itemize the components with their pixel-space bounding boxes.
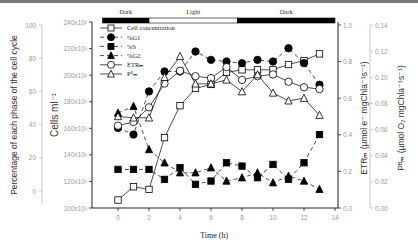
x-tick-label: 0 xyxy=(116,214,120,221)
pbm-tick-label: 0.08 xyxy=(375,100,388,107)
legend-entry: %S xyxy=(100,43,136,50)
period-label: Dark xyxy=(280,8,294,15)
etr-tick-label: 0.8 xyxy=(343,58,352,65)
x-tick-label: 12 xyxy=(300,214,308,221)
cells-tick-label: 220x10³ xyxy=(64,45,88,52)
x-tick-label: 2 xyxy=(147,214,151,221)
pbm-tick-label: 0.12 xyxy=(375,48,388,55)
x-tick-label: 6 xyxy=(209,214,213,221)
etr-tick-label: 0.2 xyxy=(343,168,352,175)
cells-tick-label: 140x10³ xyxy=(64,151,88,158)
legend-entry: ETRₘ xyxy=(100,61,143,68)
chart: 02468101214Time (h)100x10³120x10³140x10³… xyxy=(0,0,418,248)
period-label: Light xyxy=(186,8,200,15)
x-tick-label: 4 xyxy=(178,214,182,221)
cells-tick-label: 180x10³ xyxy=(64,98,88,105)
x-tick-label: 8 xyxy=(240,214,244,221)
percentage-tick-label: 80 xyxy=(29,55,37,62)
etr-tick-label: 0.0 xyxy=(343,205,352,212)
series-etr- xyxy=(114,63,323,129)
series xyxy=(114,45,323,204)
svg-text:ETRₘ: ETRₘ xyxy=(127,61,143,68)
etr-axis-title: ETRₘ (μmol e⁻ mgChla⁻¹s⁻¹) xyxy=(359,61,369,174)
x-tick-label: 10 xyxy=(269,214,277,221)
period-dark xyxy=(237,18,335,23)
legend-entry: %G1 xyxy=(100,34,140,41)
cells-axis-title: Cells ml⁻¹ xyxy=(49,92,60,137)
etr-tick-label: 0.4 xyxy=(343,131,352,138)
cells-tick-label: 240x10³ xyxy=(64,19,88,26)
pbm-tick-label: 0.14 xyxy=(375,22,388,29)
svg-text:%S: %S xyxy=(127,43,136,50)
x-axis-title: Time (h) xyxy=(200,231,228,240)
cells-tick-label: 120x10³ xyxy=(64,178,88,185)
axes: 02468101214Time (h)100x10³120x10³140x10³… xyxy=(9,19,406,241)
legend-entry: Cell concentration xyxy=(100,24,176,31)
pbm-tick-label: 0.04 xyxy=(375,152,388,159)
pbm-tick-label: 0.00 xyxy=(375,205,388,212)
cells-tick-label: 100x10³ xyxy=(64,205,88,212)
percentage-tick-label: 0 xyxy=(32,188,36,195)
percentage-tick-label: 60 xyxy=(29,88,37,95)
cells-tick-label: 200x10³ xyxy=(64,72,88,79)
cells-tick-label: 160x10³ xyxy=(64,125,88,132)
pbm-tick-label: 0.10 xyxy=(375,74,388,81)
pbm-tick-label: 0.06 xyxy=(375,126,388,133)
period-dark xyxy=(103,18,150,23)
legend-entry: %G2 xyxy=(100,52,140,59)
svg-text:%G1: %G1 xyxy=(127,34,140,41)
percentage-axis-title: Percentage of each phase of the cell cyc… xyxy=(9,35,19,195)
series--g1 xyxy=(114,45,323,139)
svg-text:%G2: %G2 xyxy=(127,52,140,59)
pbm-tick-label: 0.02 xyxy=(375,178,388,185)
legend-entry: Pᴮₘ xyxy=(100,70,137,77)
x-tick-label: 14 xyxy=(331,214,339,221)
svg-text:Pᴮₘ: Pᴮₘ xyxy=(127,70,137,77)
etr-tick-label: 1.0 xyxy=(343,22,352,29)
period-light xyxy=(149,18,237,23)
etr-tick-label: 0.6 xyxy=(343,95,352,102)
svg-text:Cell concentration: Cell concentration xyxy=(127,24,176,31)
period-bar: DarkLightDark xyxy=(103,8,336,23)
series--g2 xyxy=(114,102,323,192)
percentage-tick-label: 100 xyxy=(25,22,36,29)
percentage-tick-label: 20 xyxy=(29,154,37,161)
period-label: Dark xyxy=(119,8,133,15)
pbm-axis-title: Pᴮₘ (μmol O₂ mgChla⁻¹s⁻¹) xyxy=(396,65,406,171)
percentage-tick-label: 40 xyxy=(29,121,37,128)
